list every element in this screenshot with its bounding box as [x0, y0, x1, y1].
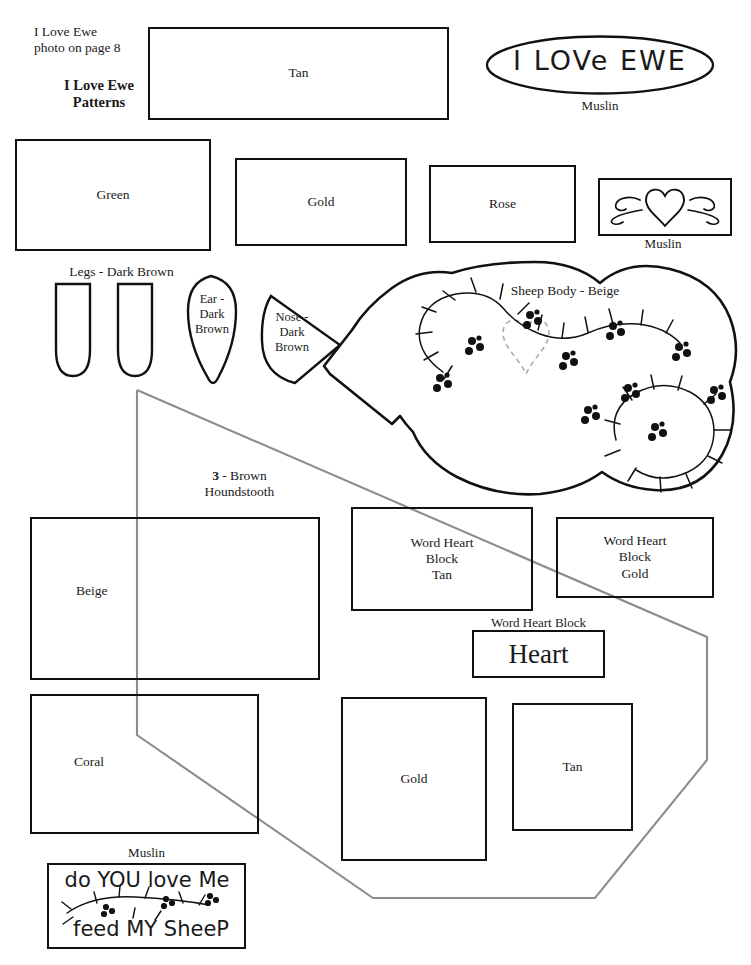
pattern-box-gold-bottom[interactable]: Gold [341, 697, 487, 861]
muslin-verse-caption: Muslin [47, 845, 246, 860]
pattern-box-label: Gold [401, 771, 428, 787]
pattern-box-word-heart-tan[interactable]: Word Heart Block Tan [351, 507, 533, 611]
pattern-box-beige[interactable]: Beige [30, 517, 320, 680]
pattern-box-coral[interactable]: Coral [30, 694, 259, 834]
pattern-box-label: Beige [76, 583, 108, 599]
houndstooth-count: 3 [212, 468, 219, 483]
pattern-box-word-heart-gold[interactable]: Word Heart Block Gold [556, 517, 714, 598]
pattern-box-label: Word Heart Block Tan [410, 535, 473, 584]
pattern-box-label: Coral [74, 754, 104, 770]
verse-line-2: feed MY SheeP [61, 917, 241, 941]
pattern-box-label: Word Heart Block Gold [603, 533, 666, 582]
pattern-box-tan-bottom[interactable]: Tan [512, 703, 633, 831]
word-heart-block-caption: Word Heart Block [467, 615, 610, 630]
pattern-box-word-heart-word[interactable]: Heart [472, 630, 605, 678]
heart-handwritten-text: Heart [509, 638, 569, 670]
houndstooth-caption: 3 - Brown Houndstooth [152, 452, 327, 500]
pattern-box-label: Tan [562, 759, 582, 775]
pattern-box-muslin-verse[interactable]: do YOU love Me feed MY SheeP [47, 863, 246, 949]
pattern-sheet: I Love Ewe photo on page 8 I Love Ewe Pa… [0, 0, 751, 965]
